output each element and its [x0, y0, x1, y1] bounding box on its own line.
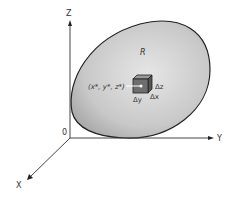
point-dot	[140, 85, 143, 88]
y-arrow-icon	[208, 136, 214, 140]
delta-z-label: Δz	[155, 83, 164, 91]
z-arrow-icon	[68, 20, 72, 26]
point-label: (x*, y*, z*)	[88, 83, 125, 91]
delta-x-label: Δx	[150, 93, 159, 101]
volume-region-diagram: Z Y X 0 R (x*, y*, z*) Δz Δy Δx	[0, 0, 234, 197]
x-axis	[30, 138, 70, 177]
x-axis-label: X	[16, 181, 22, 190]
origin-label: 0	[62, 128, 67, 137]
delta-y-label: Δy	[133, 96, 142, 104]
y-axis-label: Y	[216, 134, 222, 143]
region-label: R	[140, 48, 146, 57]
z-axis-label: Z	[66, 9, 72, 18]
